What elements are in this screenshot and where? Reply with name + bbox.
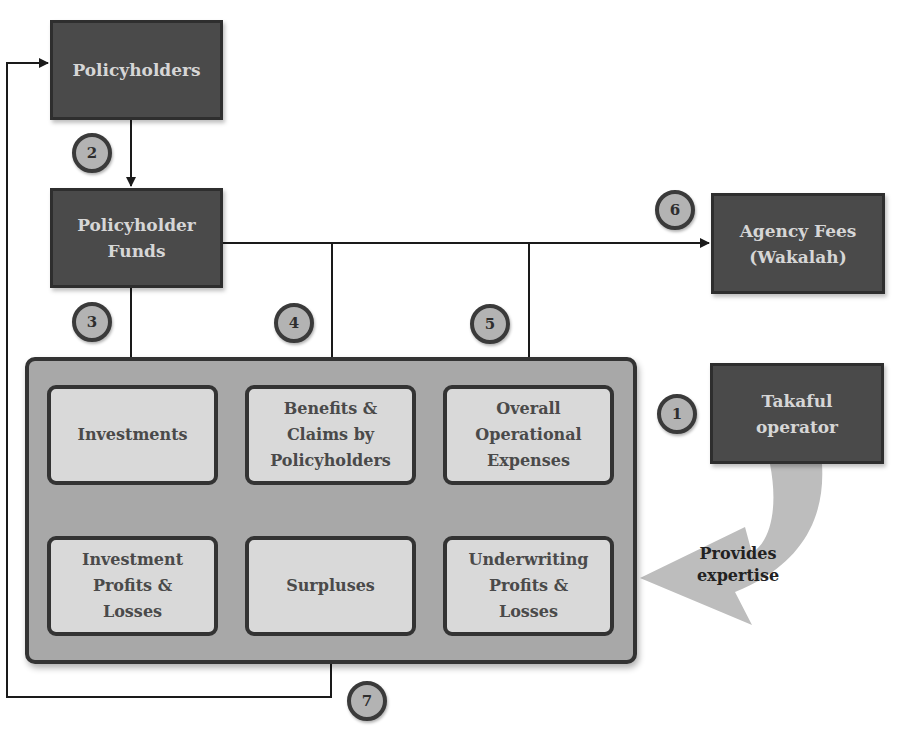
operational-expenses-node: Overall Operational Expenses — [443, 385, 614, 485]
step-badge-6: 6 — [655, 190, 695, 230]
underwriting-profits-node: Underwriting Profits & Losses — [443, 536, 614, 636]
step-badge-2: 2 — [72, 133, 112, 173]
takaful-operator-node: Takaful operator — [710, 363, 884, 464]
step-badge-5: 5 — [470, 304, 510, 344]
investments-node: Investments — [47, 385, 218, 485]
surpluses-node: Surpluses — [245, 536, 416, 636]
policyholder-funds-node: Policyholder Funds — [50, 188, 223, 288]
step-badge-4: 4 — [274, 303, 314, 343]
step-badge-1: 1 — [657, 394, 697, 434]
step-badge-3: 3 — [72, 302, 112, 342]
provides-expertise-label: Provides expertise — [693, 543, 783, 587]
agency-fees-node: Agency Fees (Wakalah) — [711, 193, 885, 294]
investment-profits-node: Investment Profits & Losses — [47, 536, 218, 636]
policyholders-node: Policyholders — [50, 20, 223, 120]
benefits-claims-node: Benefits & Claims by Policyholders — [245, 385, 416, 485]
step-badge-7: 7 — [347, 681, 387, 721]
